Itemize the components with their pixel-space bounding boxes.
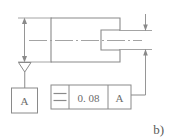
arrowhead-up-inner-icon [143,49,148,56]
datum-indicator-a [19,63,32,89]
technical-drawing: A [0,0,170,140]
figure-canvas: A [0,0,170,140]
right-extension-lines [119,31,152,50]
arrowhead-down-inner-icon [143,25,148,32]
feature-control-frame[interactable]: 0. 08 A [51,85,131,109]
fcf-datum-letter: A [116,92,124,104]
datum-triangle-icon [19,63,32,73]
slotted-block-profile [51,18,120,62]
part-outline [51,18,120,62]
slot-width-dimension [143,14,148,95]
datum-box-a[interactable]: A [12,88,38,113]
figure-label: b) [153,123,164,136]
fcf-tolerance-value: 0. 08 [78,92,101,104]
left-extension-lines [18,18,52,62]
datum-box-letter: A [21,95,29,107]
arrowhead-up-icon [22,18,27,25]
overall-height-dimension [22,18,27,63]
arrowhead-down-icon [22,56,27,63]
